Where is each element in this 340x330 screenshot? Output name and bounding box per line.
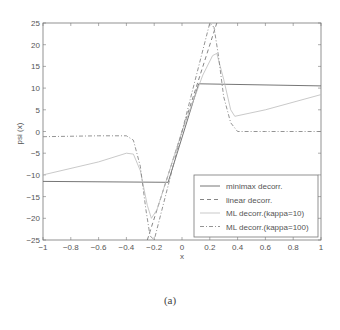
y-tick-label: −5 (31, 149, 41, 158)
chart: −1−0.8−0.6−0.4−0.200.20.40.60.8125201510… (0, 0, 340, 330)
x-tick-label: 0.6 (260, 243, 272, 252)
x-tick-label: 1 (319, 243, 324, 252)
y-tick-label: −15 (26, 193, 40, 202)
figure-caption: (a) (0, 294, 340, 306)
y-tick-label: 25 (31, 19, 40, 28)
x-tick-label: −0.4 (119, 243, 135, 252)
y-tick-label: 10 (31, 84, 40, 93)
y-tick-label: 0 (36, 128, 41, 137)
x-axis-label: x (180, 252, 184, 261)
y-tick-label: 20 (31, 41, 40, 50)
x-tick-label: 0.8 (288, 243, 300, 252)
x-tick-label: 0 (180, 243, 185, 252)
x-tick-label: −0.2 (146, 243, 162, 252)
legend-label: linear decorr. (226, 196, 272, 205)
y-tick-label: −10 (26, 171, 40, 180)
y-tick-label: −20 (26, 214, 40, 223)
x-tick-label: −0.6 (91, 243, 107, 252)
y-axis-label: psi (x) (15, 122, 24, 144)
legend-label: ML decorr.(kappa=100) (226, 223, 309, 232)
legend-label: ML decorr.(kappa=10) (226, 209, 305, 218)
legend-label: minimax decorr. (226, 182, 282, 191)
y-tick-label: 15 (31, 62, 40, 71)
x-tick-label: −0.8 (63, 243, 79, 252)
x-tick-label: 0.2 (204, 243, 216, 252)
y-tick-label: −25 (26, 236, 40, 245)
x-tick-label: 0.4 (232, 243, 244, 252)
y-tick-label: 5 (36, 106, 41, 115)
